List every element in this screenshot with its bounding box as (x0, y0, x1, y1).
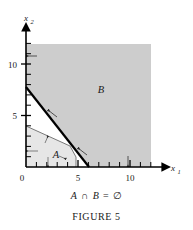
y-axis-label: x 2 (23, 13, 35, 25)
empty-set-icon: ∅ (113, 190, 122, 201)
figure-container: 0 5 10 5 10 x 1 x 2 B A A∩B=∅ FIGURE 5 (0, 0, 193, 230)
y-tick-label-5: 5 (13, 111, 18, 121)
x-axis-label-main: x (170, 163, 175, 173)
equation-set-b: B (93, 190, 99, 201)
y-axis-label-subscript: 2 (31, 18, 35, 25)
region-label-b: B (98, 84, 105, 95)
set-equation: A∩B=∅ (0, 190, 193, 201)
x-tick-label-10: 10 (126, 173, 136, 183)
x-tick-label-5: 5 (76, 173, 81, 183)
equation-equals: = (103, 190, 109, 201)
region-label-a: A (52, 149, 60, 160)
x-axis-label: x 1 (170, 163, 181, 175)
x-tick-label-0: 0 (20, 173, 25, 183)
y-axis-label-main: x (23, 13, 28, 23)
equation-set-a: A (71, 190, 77, 201)
equation-operator-icon: ∩ (81, 190, 89, 201)
figure-caption: FIGURE 5 (0, 211, 193, 222)
x-axis-label-subscript: 1 (178, 168, 181, 175)
y-tick-label-10: 10 (8, 60, 18, 70)
